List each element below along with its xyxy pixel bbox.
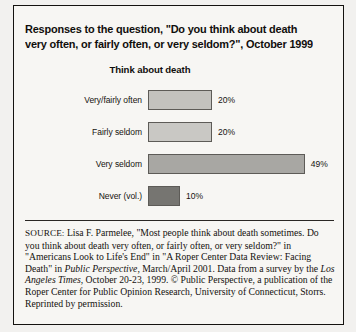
bar-row: Fairly seldom20% [14,122,345,142]
bar-category-label: Very seldom [14,154,142,174]
bar-track: 20% [148,122,345,142]
source-note: SOURCE: Lisa F. Parmelee, "Most people t… [25,227,335,309]
bar-track: 20% [148,90,345,110]
source-label: SOURCE: [25,228,65,238]
bar-value-label: 20% [218,95,235,105]
bar-track: 10% [148,186,345,206]
bar-chart: Think about death Very/fairly often20%Fa… [14,64,345,216]
bar-track: 49% [148,154,345,174]
source-italic-publication: Public Perspective [64,263,137,274]
source-text-part2: , March/April 2001. Data from a survey b… [137,263,320,274]
bar-category-label: Fairly seldom [14,122,142,142]
bar [148,122,212,142]
chart-heading: Think about death [14,64,286,75]
bar-row: Very/fairly often20% [14,90,345,110]
bar-category-label: Very/fairly often [14,90,142,110]
source-divider [25,220,334,221]
bar [148,154,305,174]
figure-frame: Responses to the question, "Do you think… [13,5,344,325]
bar-value-label: 49% [311,159,328,169]
bar-row: Never (vol.)10% [14,186,345,206]
bar [148,186,180,206]
bar-value-label: 20% [218,127,235,137]
bar-row: Very seldom49% [14,154,345,174]
figure-page: Responses to the question, "Do you think… [0,0,356,332]
figure-title: Responses to the question, "Do you think… [25,22,313,51]
bar-value-label: 10% [186,191,203,201]
bar-category-label: Never (vol.) [14,186,142,206]
bar [148,90,212,110]
bar-rows: Very/fairly often20%Fairly seldom20%Very… [14,90,345,218]
